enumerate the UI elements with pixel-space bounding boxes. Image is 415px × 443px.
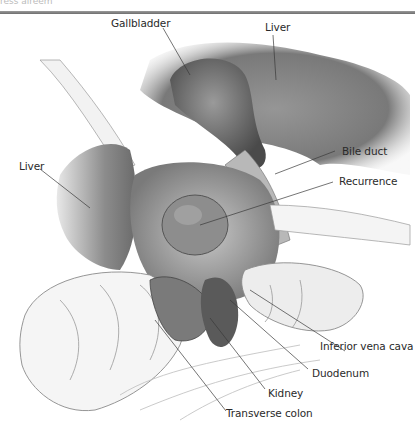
label-duodenum: Duodenum — [312, 367, 369, 379]
label-liver-top: Liver — [265, 21, 290, 33]
label-recurrence: Recurrence — [339, 175, 397, 187]
label-inferior-vena-cava: Inferior vena cava — [320, 340, 413, 352]
label-transverse-colon: Transverse colon — [226, 407, 313, 419]
label-gallbladder: Gallbladder — [111, 17, 170, 29]
label-kidney: Kidney — [268, 387, 303, 399]
label-liver-left: Liver — [19, 160, 44, 172]
label-bile-duct: Bile duct — [342, 145, 387, 157]
